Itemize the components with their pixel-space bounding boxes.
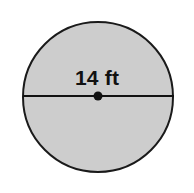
circle-figure-canvas: 14 ft — [0, 0, 194, 193]
center-dot — [94, 92, 103, 101]
diameter-label: 14 ft — [0, 66, 194, 90]
circle-diagram-svg — [0, 0, 194, 193]
